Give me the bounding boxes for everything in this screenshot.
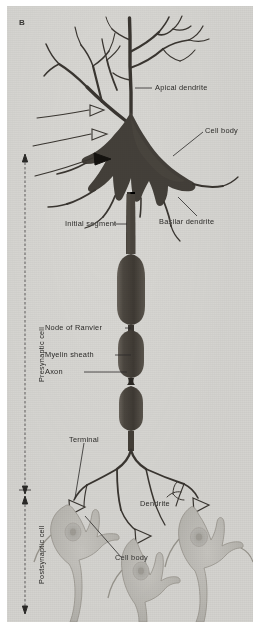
apical-trunk — [130, 18, 132, 114]
label-cell-body-bottom: Cell body — [115, 554, 148, 561]
label-axon: Axon — [45, 368, 63, 375]
apical-dendrite-tree — [44, 16, 209, 121]
presynaptic-bracket — [19, 154, 31, 494]
label-dendrite: Dendrite — [140, 500, 170, 507]
label-initial-segment: Initial segment — [65, 220, 116, 227]
postsynaptic-cell-1 — [34, 505, 119, 622]
label-node-of-ranvier: Node of Ranvier — [45, 324, 102, 331]
label-apical-dendrite: Apical dendrite — [155, 84, 208, 91]
panel-letter-b: B — [19, 18, 25, 27]
label-terminal: Terminal — [69, 436, 99, 443]
figure-panel-b: B Apical dendrite Cell body Basilar dend… — [0, 0, 260, 636]
node-of-ranvier-2 — [127, 378, 135, 385]
axosomatic-synapses — [33, 105, 111, 176]
label-myelin-sheath: Myelin sheath — [45, 351, 94, 358]
axon-initial-segment — [126, 192, 136, 254]
label-cell-body-top: Cell body — [205, 127, 238, 134]
myelinated-axon — [117, 254, 145, 451]
micrograph-plate: B Apical dendrite Cell body Basilar dend… — [7, 6, 253, 622]
myelin-internode-1 — [117, 254, 145, 325]
synaptic-bouton-open-2 — [92, 129, 107, 140]
synaptic-bouton-open-1 — [90, 105, 104, 116]
myelin-internode-2 — [118, 330, 144, 378]
postsynaptic-cell-3 — [165, 506, 253, 622]
postsynaptic-bracket — [22, 496, 27, 614]
label-basilar-dendrite: Basilar dendrite — [159, 218, 214, 225]
myelin-internode-3 — [119, 386, 143, 431]
postsynaptic-cell-2 — [108, 539, 180, 622]
terminal-bouton-2 — [135, 529, 151, 544]
bracket-label-presynaptic: Presynaptic cell — [38, 327, 45, 382]
bracket-label-postsynaptic: Postsynaptic cell — [38, 525, 45, 584]
